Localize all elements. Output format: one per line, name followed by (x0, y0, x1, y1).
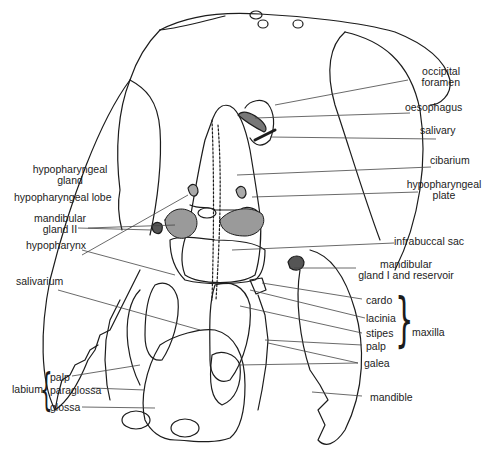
maxilla-right-galea (210, 352, 240, 405)
label-salivary: salivary (420, 125, 456, 136)
label-occipital-foramen: occipital foramen (396, 66, 460, 88)
hypopharyngeal-lobe-left (188, 185, 198, 197)
labium-glossa (143, 330, 245, 442)
label-cibarium: cibarium (430, 155, 470, 166)
label-paraglossa: paraglossa (50, 385, 101, 396)
salivary-duct-2 (216, 125, 220, 300)
salivary-duct (212, 120, 214, 300)
leader-glossa (82, 407, 155, 408)
leader-occipital-foramen (275, 80, 408, 105)
ocellus-1 (250, 11, 262, 19)
label-lacinia: lacinia (366, 313, 396, 324)
label-mandible: mandible (370, 392, 413, 403)
label-hypopharyngeal-plate: hypopharyngeal plate (404, 179, 484, 201)
labium-lobe-right (171, 419, 199, 437)
label-hypopharyngeal-gland-line2: gland (30, 175, 110, 186)
ocellus-2 (258, 20, 268, 28)
eye-left (130, 80, 161, 235)
label-hypopharyngeal-lobe: hypopharyngeal lobe (14, 192, 112, 203)
eye-right-inner (330, 32, 380, 240)
leader-hypopharynx (82, 250, 175, 275)
label-mandibular-gland-1: mandibular gland I and reservoir (350, 259, 462, 281)
maxilla-left-stipes (145, 283, 178, 360)
label-stipes: stipes (366, 328, 393, 339)
label-cardo: cardo (366, 295, 392, 306)
maxilla-brace: } (395, 291, 413, 349)
label-galea: galea (364, 358, 390, 369)
leader-mandible (312, 392, 362, 396)
label-palp-maxilla: palp (366, 341, 386, 352)
leader-infrabuccal-sac (232, 243, 394, 250)
leader-oesophagus (255, 113, 410, 118)
label-glossa: glossa (50, 402, 80, 413)
leader-palp-right (265, 340, 362, 345)
hypopharyngeal-gland-left (165, 209, 197, 238)
label-occipital-foramen-line2: foramen (396, 77, 460, 88)
mandibular-gland-2 (152, 223, 162, 234)
head-capsule-left (118, 30, 160, 230)
leader-lacinia (250, 290, 365, 318)
hypopharyngeal-gland-right (220, 209, 264, 236)
ocellus-3 (293, 20, 303, 28)
leader-galea-1 (238, 363, 358, 365)
label-hypopharyngeal-gland: hypopharyngeal gland (30, 164, 110, 186)
label-infrabuccal-sac: infrabuccal sac (394, 236, 464, 247)
leader-galea-2 (268, 343, 358, 363)
hypopharyngeal-lobe-right (236, 187, 246, 199)
head-capsule-outline (160, 13, 450, 105)
label-hypopharynx: hypopharynx (26, 240, 86, 251)
maxilla-left-galea (127, 290, 140, 385)
leader-cibarium (237, 167, 431, 175)
label-labium-palp: palp (50, 372, 70, 383)
label-mandibular-gland-1-line2: gland I and reservoir (350, 270, 462, 281)
leader-salivary (270, 137, 436, 139)
label-hypopharyngeal-plate-line2: plate (404, 190, 484, 201)
label-salivarium: salivarium (16, 276, 63, 287)
labium-lobe-left (122, 411, 150, 429)
label-oesophagus: oesophagus (405, 102, 462, 113)
label-mandibular-gland-2-line2: gland II (30, 224, 90, 235)
leader-hypopharyngeal-plate (252, 192, 418, 197)
label-mandibular-gland-2: mandibular gland II (30, 213, 90, 235)
label-labium: labium (12, 384, 43, 395)
label-maxilla: maxilla (412, 327, 445, 338)
